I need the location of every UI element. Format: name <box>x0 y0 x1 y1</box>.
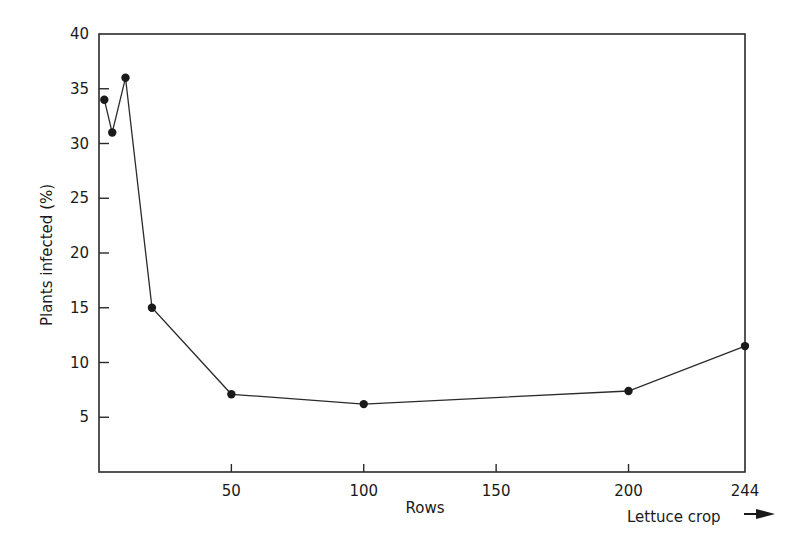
y-tick-label: 25 <box>70 189 89 207</box>
data-point-marker <box>100 96 108 104</box>
data-point-marker <box>148 304 156 312</box>
data-point-marker <box>108 128 116 136</box>
x-tick-label: 150 <box>482 482 511 500</box>
y-tick-label: 30 <box>70 135 89 153</box>
x-axis-label: Rows <box>405 499 444 517</box>
series-line <box>104 78 745 404</box>
data-series <box>100 74 749 409</box>
data-point-marker <box>741 342 749 350</box>
y-axis-label: Plants infected (%) <box>38 184 56 326</box>
y-tick-label: 35 <box>70 80 89 98</box>
y-tick-label: 20 <box>70 244 89 262</box>
x-axis-annotation: Lettuce crop <box>627 508 721 526</box>
y-tick-label: 5 <box>79 408 89 426</box>
x-tick-label: 100 <box>349 482 378 500</box>
x-tick-label: 200 <box>614 482 643 500</box>
data-point-marker <box>227 390 235 398</box>
data-point-marker <box>121 74 129 82</box>
y-tick-label: 15 <box>70 299 89 317</box>
y-tick-label: 10 <box>70 354 89 372</box>
x-axis-ticks: 50100150200244 <box>222 464 759 500</box>
plot-border <box>99 34 745 472</box>
data-point-marker <box>624 387 632 395</box>
line-chart: 510152025303540 50100150200244 Plants in… <box>0 0 802 549</box>
arrow-right-icon <box>744 509 775 519</box>
plot-frame <box>99 34 745 472</box>
y-tick-label: 40 <box>70 25 89 43</box>
data-point-marker <box>360 400 368 408</box>
x-tick-label: 50 <box>222 482 241 500</box>
x-tick-label: 244 <box>731 482 760 500</box>
y-axis-ticks: 510152025303540 <box>70 25 109 426</box>
